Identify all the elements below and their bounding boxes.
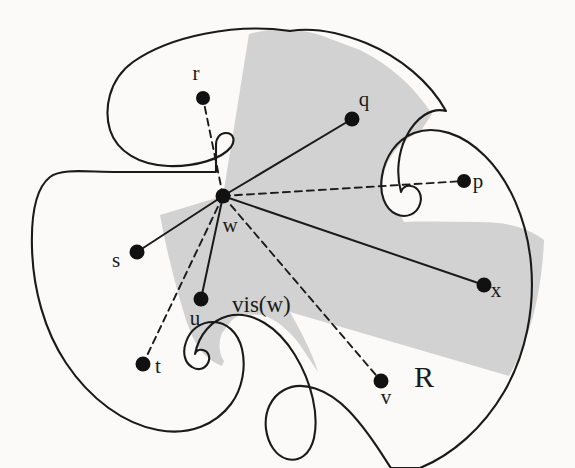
point-p: p — [457, 169, 483, 193]
point-label-x: x — [491, 278, 502, 302]
vertex-dot-u — [194, 292, 209, 307]
figure-page: wrqpsutvx vis(w)R — [0, 0, 575, 468]
region-label-R: R — [414, 360, 434, 393]
vertex-dot-s — [130, 245, 145, 260]
point-v: v — [374, 374, 392, 410]
vis-w-shaded-area — [160, 29, 544, 376]
point-label-v: v — [381, 385, 392, 409]
visibility-polygon-diagram: wrqpsutvx vis(w)R — [0, 0, 575, 468]
point-label-q: q — [359, 87, 370, 111]
sight-line-w-r — [203, 98, 223, 196]
point-s: s — [112, 245, 145, 273]
vertex-dot-w — [216, 189, 231, 204]
vertex-dot-q — [345, 112, 360, 127]
point-t: t — [136, 354, 162, 378]
point-label-w: w — [222, 213, 238, 237]
vertex-dot-t — [136, 357, 151, 372]
point-label-p: p — [473, 169, 484, 193]
visibility-region-shading — [160, 29, 544, 376]
vertex-dot-r — [196, 91, 210, 105]
vertex-dot-x — [477, 278, 492, 293]
region-label-vis-w: vis(w) — [232, 292, 291, 317]
point-r: r — [193, 61, 211, 105]
point-label-s: s — [112, 248, 120, 272]
vertex-dot-p — [457, 174, 471, 188]
point-label-r: r — [193, 61, 200, 85]
point-label-u: u — [190, 306, 201, 330]
point-label-t: t — [155, 354, 161, 378]
